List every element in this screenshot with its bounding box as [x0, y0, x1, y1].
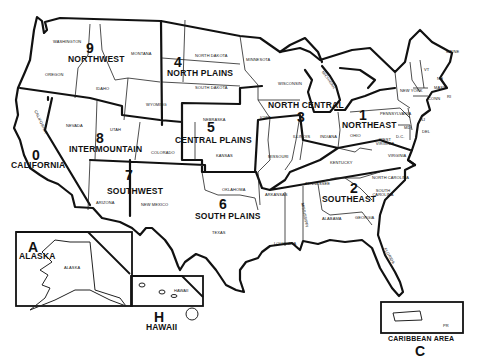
state-west-virginia: WEST VIRGINIA [372, 138, 398, 146]
state-maine: MAINE [446, 50, 459, 54]
state-iowa: IOWA [260, 116, 271, 120]
state-minnesota: MINNESOTA [246, 58, 270, 62]
state-new-hampshire: NH [437, 77, 443, 81]
state-kansas: KANSAS [216, 154, 233, 158]
state-louisiana: LOUISIANA [274, 242, 296, 246]
state-arkansas: ARKANSAS [265, 193, 288, 197]
region-9-name: NORTHWEST [68, 55, 125, 64]
state-delaware: DEL [422, 130, 430, 134]
region-6-number: 6 [219, 197, 227, 211]
region-c-number: C [415, 344, 425, 358]
region-c-name: CARIBBEAN AREA [388, 335, 454, 342]
hawaii-islands [139, 283, 198, 320]
state-montana: MONTANA [131, 52, 151, 56]
region-0-name: CALIFORNIA [11, 161, 65, 170]
region-2-name: SOUTHEAST [322, 195, 376, 204]
state-missouri: MISSOURI [268, 155, 289, 159]
region-8-number: 8 [96, 131, 104, 145]
state-wyoming: WYOMING [146, 103, 167, 107]
state-maryland: MD [404, 126, 410, 130]
region-a-name: ALASKA [19, 252, 56, 261]
state-pr: PR [443, 324, 449, 328]
state-nebraska: NEBRASKA [203, 118, 226, 122]
state-south-carolina: SOUTH CAROLINA [372, 189, 394, 197]
state-alaska: ALASKA [64, 266, 80, 270]
caribbean-inset-box [381, 302, 463, 333]
region-3-name: NORTH CENTRAL [268, 101, 344, 110]
state-georgia: GEORGIA [355, 216, 374, 220]
state-alabama: ALABAMA [322, 217, 342, 221]
state-nevada: NEVADA [66, 124, 83, 128]
state-north-dakota: NORTH DAKOTA [195, 54, 228, 58]
region-1-name: NORTHEAST [342, 121, 397, 130]
region-5-name: CENTRAL PLAINS [175, 136, 252, 145]
state-washington: WASHINGTON [53, 40, 81, 44]
state-rhode-island: RI [447, 95, 451, 99]
state-idaho: IDAHO [96, 87, 109, 91]
region-4-name: NORTH PLAINS [167, 69, 233, 78]
state-tennessee: TENNESSEE [305, 182, 330, 186]
region-7-name: SOUTHWEST [107, 187, 163, 196]
state-connecticut: CONN [428, 97, 440, 101]
state-virginia: VIRGINIA [388, 154, 406, 158]
state-south-dakota: SOUTH DAKOTA [195, 86, 227, 90]
state-oregon: OREGON [45, 73, 63, 77]
region-6-name: SOUTH PLAINS [195, 212, 261, 221]
state-indiana: INDIANA [320, 135, 337, 139]
region-3-number: 3 [297, 110, 305, 124]
region-h-name: HAWAII [146, 323, 177, 332]
state-wisconsin: WISCONSIN [278, 82, 302, 86]
region-8-name: INTERMOUNTAIN [69, 145, 142, 154]
region-7-number: 7 [125, 168, 133, 182]
region-2-number: 2 [350, 181, 358, 195]
state-north-carolina: NORTH CAROLINA [372, 176, 409, 180]
state-hawaii: HAWAII [174, 289, 189, 293]
state-oklahoma: OKLAHOMA [222, 188, 245, 192]
state-new-york: NEW YORK [400, 89, 423, 93]
state-texas: TEXAS [212, 231, 226, 235]
puerto-rico-outline [393, 311, 422, 321]
state-massachusetts: MASS [434, 86, 446, 90]
us-regions-map: 9 NORTHWEST 4 NORTH PLAINS 5 CENTRAL PLA… [0, 0, 479, 362]
region-4-number: 4 [174, 55, 182, 69]
hawaii-inset-box [131, 276, 203, 306]
state-utah: UTAH [110, 128, 121, 132]
state-pennsylvania: PENNSYLVANIA [380, 112, 411, 116]
state-new-jersey: NJ [420, 118, 425, 122]
region-9-number: 9 [86, 41, 94, 55]
state-vermont: VT [424, 68, 429, 72]
state-illinois: ILLINOIS [293, 135, 310, 139]
region-5-number: 5 [207, 120, 215, 134]
state-new-mexico: NEW MEXICO [141, 203, 168, 207]
state-ohio: OHIO [350, 134, 361, 138]
state-kentucky: KENTUCKY [330, 161, 353, 165]
state-arizona: ARIZONA [96, 201, 114, 205]
state-colorado: COLORADO [151, 151, 175, 155]
state-dc: D.C. [396, 135, 404, 139]
